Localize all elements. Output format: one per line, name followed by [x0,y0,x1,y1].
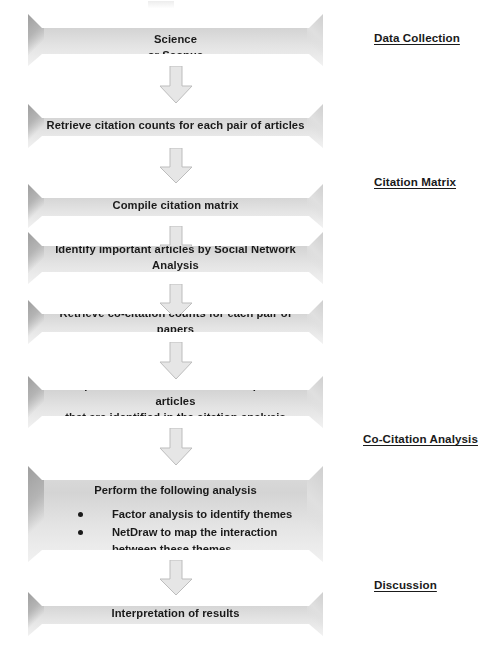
flowchart-canvas: Collect articles from database like Web … [0,0,495,655]
flow-step-text: Collect articles from database like Web … [46,15,305,64]
box-right-shadow-wedge [307,104,323,148]
flow-step-title: Perform the following analysis [44,484,307,496]
box-left-shadow-wedge [28,14,44,66]
arrow-down-2 [158,148,194,184]
box-right-shadow-wedge [307,232,323,284]
flow-step-perform-analysis[interactable]: Perform the following analysis Factor an… [28,466,323,562]
arrow-down-7 [158,560,194,596]
flow-step-text: Retrieve citation counts for each pair o… [46,117,305,133]
bullet-item-label: NetDraw to map the interaction between t… [112,526,277,555]
flow-step-retrieve-citation-counts[interactable]: Retrieve citation counts for each pair o… [28,104,323,148]
box-left-shadow-wedge [28,232,44,284]
bullet-item-netdraw: NetDraw to map the interaction between t… [78,524,307,558]
flow-step-text: Compile citation matrix [46,197,305,213]
flow-step-interpretation-of-results[interactable]: Interpretation of results [28,592,323,636]
stage-label-data-collection: Data Collection [374,31,460,44]
flow-step-text: Compile co-citation matrix of the import… [46,377,305,426]
flow-step-text: Interpretation of results [46,605,305,621]
stage-label-co-citation-analysis: Co-Citation Analysis [363,432,478,445]
bullet-dot-icon [78,530,83,535]
flow-step-compile-citation-matrix[interactable]: Compile citation matrix [28,184,323,228]
arrow-down-1 [158,66,194,104]
analysis-bullet-list: Factor analysis to identify themes NetDr… [44,506,307,557]
box-left-shadow-wedge [28,466,44,562]
box-right-shadow-wedge [307,300,323,344]
stage-label-discussion: Discussion [374,578,437,591]
box-left-shadow-wedge [28,300,44,344]
arrow-down-6 [158,428,194,466]
flow-step-collect-articles[interactable]: Collect articles from database like Web … [28,14,323,66]
arrow-down-5 [158,342,194,380]
flow-step-compile-cocitation-matrix[interactable]: Compile co-citation matrix of the import… [28,376,323,428]
box-right-shadow-wedge [307,14,323,66]
box-left-shadow-wedge [28,376,44,428]
box-left-shadow-wedge [28,104,44,148]
box-right-shadow-wedge [307,466,323,562]
bullet-item-factor-analysis: Factor analysis to identify themes [78,506,307,523]
box-right-shadow-wedge [307,592,323,636]
bullet-item-label: Factor analysis to identify themes [112,508,292,520]
bullet-dot-icon [78,512,83,517]
stage-label-citation-matrix: Citation Matrix [374,175,456,188]
box-left-shadow-wedge [28,592,44,636]
box-right-shadow-wedge [307,184,323,228]
scan-artifact [148,1,174,8]
box-right-shadow-wedge [307,376,323,428]
box-left-shadow-wedge [28,184,44,228]
